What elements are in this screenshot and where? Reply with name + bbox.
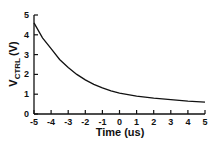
x-tick-label: 3 — [168, 117, 173, 127]
svg-text:VCTRL(V): VCTRL(V) — [7, 41, 22, 87]
x-tick-label: -4 — [47, 117, 55, 127]
data-line — [34, 23, 205, 102]
x-tick-label: 5 — [202, 117, 207, 127]
y-axis-label: VCTRL(V) — [7, 41, 22, 87]
x-axis: -5-4-3-2-1012345 — [30, 110, 208, 127]
x-tick-label: -2 — [81, 117, 89, 127]
x-tick-label: 4 — [185, 117, 190, 127]
y-tick-label: 0 — [24, 109, 29, 119]
y-tick-label: 4 — [24, 30, 29, 40]
x-tick-label: -5 — [30, 117, 38, 127]
y-tick-label: 3 — [24, 50, 29, 60]
chart: 012345 -5-4-3-2-1012345 Time (us) VCTRL(… — [0, 0, 215, 145]
x-axis-label: Time (us) — [96, 126, 145, 138]
y-tick-label: 1 — [24, 89, 29, 99]
x-tick-label: 2 — [151, 117, 156, 127]
y-tick-label: 5 — [24, 10, 29, 20]
y-tick-label: 2 — [24, 69, 29, 79]
x-tick-label: -3 — [64, 117, 72, 127]
